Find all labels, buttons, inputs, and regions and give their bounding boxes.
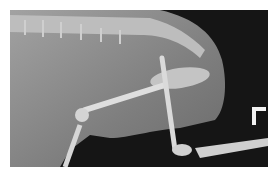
knee-joint	[75, 108, 89, 122]
laterality-marker	[252, 107, 266, 125]
radiograph	[10, 10, 268, 167]
hock-joint	[172, 144, 192, 156]
radiograph-drawing	[10, 10, 268, 167]
